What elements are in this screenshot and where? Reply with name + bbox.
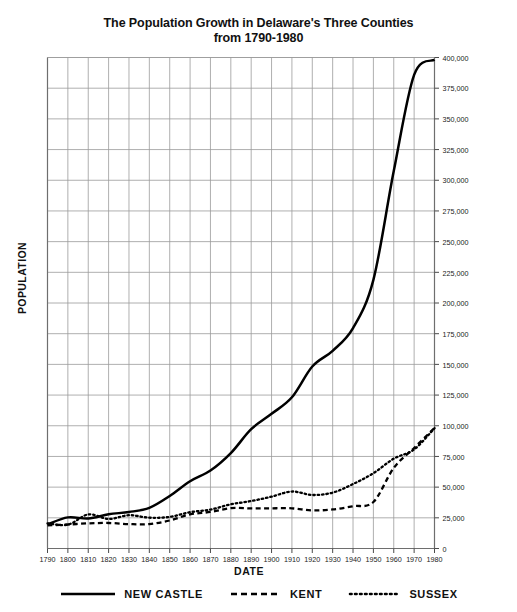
x-tick-label: 1920 <box>304 555 320 564</box>
y-tick-label: 325,000 <box>443 146 469 155</box>
y-tick-label: 250,000 <box>443 238 469 247</box>
x-tick-label: 1860 <box>182 555 198 564</box>
x-tick-label: 1890 <box>243 555 259 564</box>
x-tick-label: 1800 <box>60 555 76 564</box>
legend-swatch-dashed <box>229 589 283 599</box>
x-tick-label: 1850 <box>162 555 178 564</box>
x-tick-label: 1970 <box>406 555 422 564</box>
y-tick-label: 175,000 <box>443 330 469 339</box>
x-tick-label: 1820 <box>101 555 117 564</box>
y-tick-label: 0 <box>443 545 447 554</box>
y-tick-label: 225,000 <box>443 269 469 278</box>
legend-item-sussex: SUSSEX <box>348 588 457 600</box>
x-tick-label: 1870 <box>202 555 218 564</box>
y-tick-label: 375,000 <box>443 84 469 93</box>
legend-item-new-castle: NEW CASTLE <box>59 588 203 600</box>
x-tick-label: 1910 <box>284 555 300 564</box>
y-tick-label: 50,000 <box>443 483 465 492</box>
y-tick-label: 400,000 <box>443 54 469 63</box>
y-tick-label: 150,000 <box>443 361 469 370</box>
legend-swatch-solid <box>59 589 117 599</box>
y-tick-label: 275,000 <box>443 207 469 216</box>
y-tick-label: 75,000 <box>443 453 465 462</box>
x-tick-label: 1810 <box>80 555 96 564</box>
x-tick-label: 1980 <box>427 555 443 564</box>
x-tick-label: 1930 <box>325 555 341 564</box>
legend-label-kent: KENT <box>290 588 322 600</box>
legend-item-kent: KENT <box>229 588 322 600</box>
x-tick-label: 1960 <box>386 555 402 564</box>
x-tick-label: 1830 <box>121 555 137 564</box>
x-tick-label: 1790 <box>40 555 56 564</box>
legend-label-sussex: SUSSEX <box>409 588 457 600</box>
legend-label-new-castle: NEW CASTLE <box>124 588 203 600</box>
x-tick-label: 1840 <box>141 555 157 564</box>
x-tick-label: 1880 <box>223 555 239 564</box>
series-line-new-castle <box>48 60 435 525</box>
y-tick-label: 100,000 <box>443 422 469 431</box>
y-tick-label: 200,000 <box>443 299 469 308</box>
chart-plot-area: 025,00050,00075,000100,000125,000150,000… <box>0 0 517 612</box>
chart-svg: 025,00050,00075,000100,000125,000150,000… <box>0 0 517 612</box>
x-tick-label: 1940 <box>345 555 361 564</box>
y-tick-label: 350,000 <box>443 115 469 124</box>
y-tick-label: 25,000 <box>443 514 465 523</box>
legend-swatch-dotted <box>348 589 402 599</box>
chart-legend: NEW CASTLE KENT SUSSEX <box>0 588 517 600</box>
x-axis-title: DATE <box>0 565 498 577</box>
x-tick-label: 1950 <box>365 555 381 564</box>
y-tick-label: 125,000 <box>443 391 469 400</box>
y-axis-title: POPULATION <box>16 223 28 333</box>
x-tick-label: 1900 <box>264 555 280 564</box>
y-tick-label: 300,000 <box>443 176 469 185</box>
